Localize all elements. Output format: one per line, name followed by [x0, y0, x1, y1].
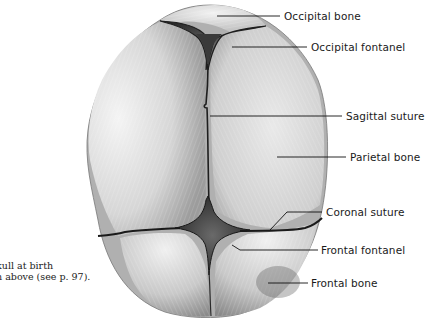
- label-occipital-fontanel: Occipital fontanel: [311, 41, 405, 53]
- label-parietal-bone: Parietal bone: [350, 151, 420, 163]
- frontal-eminence-shading: [256, 266, 300, 298]
- label-sagittal-suture: Sagittal suture: [346, 110, 425, 122]
- figure-caption: kull at birth n above (see p. 97).: [0, 260, 90, 282]
- caption-line-2: n above (see p. 97).: [0, 271, 90, 282]
- caption-line-1: kull at birth: [0, 260, 90, 271]
- label-occipital-bone: Occipital bone: [284, 10, 361, 22]
- label-coronal-suture: Coronal suture: [326, 206, 404, 218]
- label-frontal-fontanel: Frontal fontanel: [321, 244, 405, 256]
- label-frontal-bone: Frontal bone: [311, 277, 378, 289]
